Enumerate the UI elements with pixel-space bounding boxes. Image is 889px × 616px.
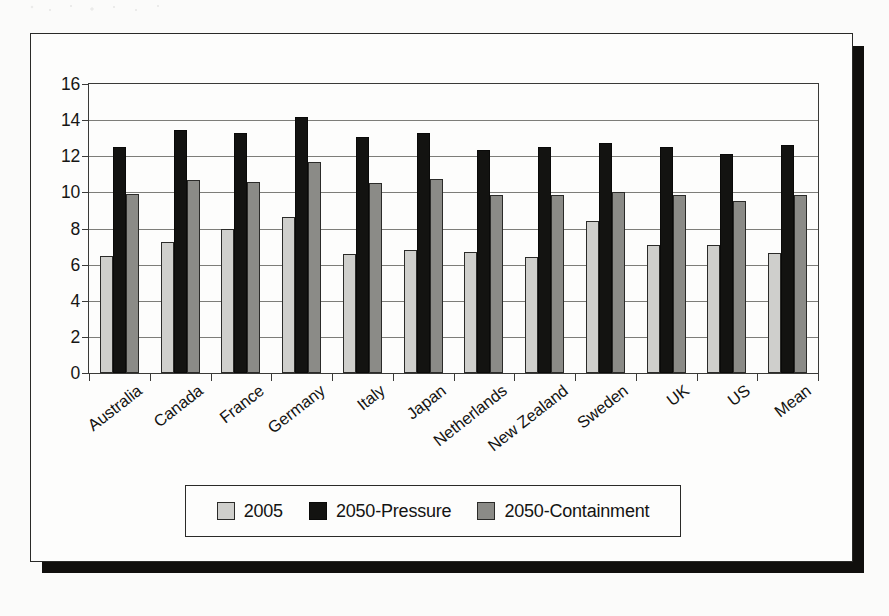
y-axis-tick-label: 0: [70, 363, 89, 384]
bar[interactable]: [282, 217, 295, 373]
bar[interactable]: [430, 179, 443, 373]
bar[interactable]: [477, 150, 490, 373]
bar-group: [647, 84, 686, 373]
bar[interactable]: [126, 194, 139, 373]
bar[interactable]: [161, 242, 174, 373]
bar-group: [586, 84, 625, 373]
bar[interactable]: [673, 195, 686, 373]
chart-legend: 2005 2050-Pressure 2050-Containment: [185, 485, 681, 537]
y-axis-tick-label: 14: [61, 110, 89, 131]
legend-swatch-2050-containment: [477, 502, 495, 520]
panel-drop-shadow-bottom: [42, 562, 864, 573]
bar[interactable]: [525, 257, 538, 373]
y-axis-tick-label: 8: [70, 218, 89, 239]
bar[interactable]: [733, 201, 746, 373]
bar-group: [404, 84, 443, 373]
y-axis-tick-label: 4: [70, 290, 89, 311]
bar[interactable]: [356, 137, 369, 373]
plot-wrapper: 0246810121416 AustraliaCanadaFranceGerma…: [31, 34, 854, 563]
x-axis-category-label: US: [724, 381, 754, 410]
bar[interactable]: [417, 133, 430, 373]
y-axis-tick-label: 6: [70, 254, 89, 275]
bar[interactable]: [234, 133, 247, 373]
x-axis-category-label: Mean: [770, 381, 814, 421]
bar-group: [161, 84, 200, 373]
scan-artifact: [26, 3, 176, 15]
legend-item-2005[interactable]: 2005: [217, 501, 283, 522]
legend-label-2050-containment: 2050-Containment: [504, 501, 649, 522]
bar[interactable]: [187, 180, 200, 373]
bar[interactable]: [720, 154, 733, 373]
x-axis-category-label: Germany: [264, 381, 329, 437]
x-axis-category-label: France: [216, 381, 268, 427]
x-axis-category-label: Sweden: [574, 381, 632, 432]
bar[interactable]: [369, 183, 382, 373]
bar[interactable]: [247, 182, 260, 373]
legend-swatch-2050-pressure: [309, 502, 327, 520]
bar-group: [525, 84, 564, 373]
bar-group: [100, 84, 139, 373]
legend-item-2050-containment[interactable]: 2050-Containment: [477, 501, 649, 522]
bar[interactable]: [612, 192, 625, 373]
x-axis-category-label: Italy: [354, 381, 389, 414]
bar-group: [221, 84, 260, 373]
bar[interactable]: [538, 147, 551, 373]
bar[interactable]: [174, 130, 187, 373]
bar[interactable]: [647, 245, 660, 373]
x-axis-category-label: Australia: [84, 381, 146, 435]
x-axis-category-label: Canada: [150, 381, 207, 431]
bar[interactable]: [599, 143, 612, 373]
y-axis-tick-label: 10: [61, 182, 89, 203]
y-axis-tick-label: 16: [61, 74, 89, 95]
legend-swatch-2005: [217, 502, 235, 520]
figure-root: 0246810121416 AustraliaCanadaFranceGerma…: [0, 0, 889, 616]
legend-label-2050-pressure: 2050-Pressure: [336, 501, 451, 522]
bar[interactable]: [586, 221, 599, 373]
bar[interactable]: [794, 195, 807, 373]
bar-group: [768, 84, 807, 373]
legend-label-2005: 2005: [244, 501, 283, 522]
plot-area: 0246810121416: [88, 83, 819, 374]
bar[interactable]: [707, 245, 720, 373]
bar-group: [707, 84, 746, 373]
chart-panel: 0246810121416 AustraliaCanadaFranceGerma…: [30, 33, 853, 562]
bar-group-container: [89, 84, 818, 373]
bar[interactable]: [660, 147, 673, 373]
bar[interactable]: [404, 250, 417, 373]
bar[interactable]: [295, 117, 308, 373]
x-axis-category-label: UK: [663, 381, 693, 410]
bar-group: [343, 84, 382, 373]
bar[interactable]: [308, 162, 321, 373]
x-axis-label-group: AustraliaCanadaFranceGermanyItalyJapanNe…: [88, 375, 819, 470]
bar[interactable]: [464, 252, 477, 373]
panel-drop-shadow-right: [853, 46, 864, 573]
bar[interactable]: [343, 254, 356, 373]
bar[interactable]: [113, 147, 126, 373]
y-axis-tick-label: 12: [61, 146, 89, 167]
bar-group: [282, 84, 321, 373]
bar-group: [464, 84, 503, 373]
y-axis-tick-label: 2: [70, 326, 89, 347]
bar[interactable]: [768, 253, 781, 373]
bar[interactable]: [100, 256, 113, 373]
bar[interactable]: [551, 195, 564, 373]
bar[interactable]: [781, 145, 794, 373]
bar[interactable]: [221, 229, 234, 374]
x-axis-category-label: Japan: [403, 381, 450, 423]
bar[interactable]: [490, 195, 503, 373]
legend-item-2050-pressure[interactable]: 2050-Pressure: [309, 501, 451, 522]
